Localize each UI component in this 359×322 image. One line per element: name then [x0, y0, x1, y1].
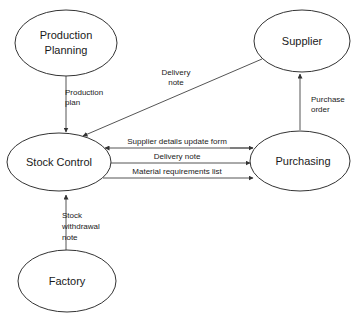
- node-label-production-planning-line2: Planning: [45, 44, 88, 56]
- node-label-supplier: Supplier: [282, 35, 323, 47]
- flow-label-delivery-note-purchasing: Delivery note: [154, 152, 201, 161]
- diagram-canvas: Production Planning Supplier Stock Contr…: [0, 0, 359, 322]
- flow-label-production-plan-line1: Production: [65, 88, 103, 97]
- node-stock-control[interactable]: Stock Control: [7, 133, 111, 191]
- flow-label-production-plan-line2: plan: [65, 98, 80, 107]
- data-flow-diagram: Production Planning Supplier Stock Contr…: [0, 0, 359, 322]
- node-label-purchasing: Purchasing: [275, 155, 330, 167]
- node-purchasing[interactable]: Purchasing: [250, 131, 350, 191]
- node-label-production-planning-line1: Production: [40, 29, 93, 41]
- flow-label-purchase-order-line2: order: [311, 105, 330, 114]
- node-label-stock-control: Stock Control: [26, 156, 92, 168]
- flow-label-delivery-note-supplier-line1: Delivery: [162, 68, 191, 77]
- flow-label-stock-withdrawal-note-line3: note: [62, 233, 78, 242]
- flow-label-supplier-details-update-form: Supplier details update form: [127, 137, 227, 146]
- flow-label-material-requirements-list: Material requirements list: [132, 167, 222, 176]
- flow-label-stock-withdrawal-note-line2: withdrawal: [61, 222, 100, 231]
- flow-label-purchase-order-line1: Purchase: [311, 95, 345, 104]
- node-supplier[interactable]: Supplier: [254, 10, 350, 72]
- node-production-planning[interactable]: Production Planning: [15, 10, 117, 76]
- flow-label-stock-withdrawal-note-line1: Stock: [62, 211, 83, 220]
- node-label-factory: Factory: [49, 275, 86, 287]
- node-factory[interactable]: Factory: [18, 250, 116, 312]
- flow-label-delivery-note-supplier-line2: note: [168, 78, 184, 87]
